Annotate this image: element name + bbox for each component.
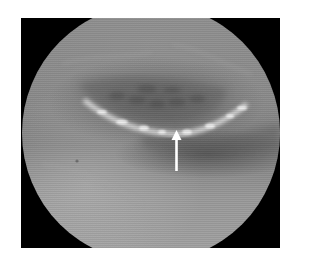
endoscopic-field-of-view xyxy=(22,18,280,248)
image-frame xyxy=(21,18,280,248)
tissue-texture xyxy=(22,18,280,248)
